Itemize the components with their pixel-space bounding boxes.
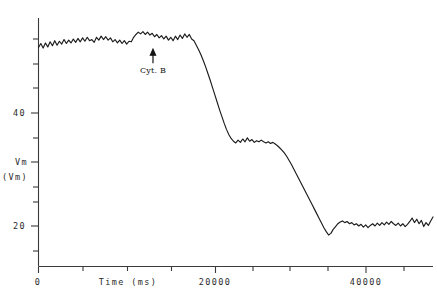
cytb-annotation-label: Cyt. B (140, 66, 166, 75)
chart-figure: 40 20 Vm (Vm) 0 20000 40000 Time (ms) (0, 0, 437, 296)
x-tick-label-0: 0 (35, 277, 42, 287)
y-axis-units: (Vm) (2, 172, 28, 182)
x-axis-title: Time (ms) (99, 277, 158, 287)
y-tick-label-20: 20 (13, 221, 26, 231)
y-tick-label-40: 40 (13, 108, 26, 118)
x-tick-label-20000: 20000 (199, 277, 232, 287)
y-axis-title: Vm (15, 157, 28, 167)
vm-time-plot: 40 20 Vm (Vm) 0 20000 40000 Time (ms) (0, 0, 437, 296)
plot-background (0, 0, 437, 296)
x-tick-label-40000: 40000 (350, 277, 383, 287)
